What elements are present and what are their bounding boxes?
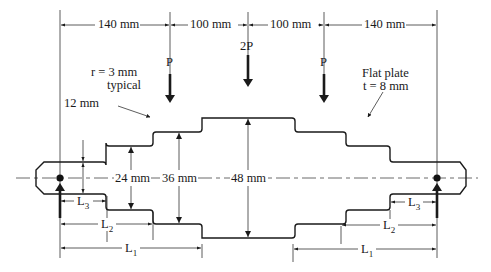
- load-arrows: [165, 55, 329, 103]
- width-48mm-label: 48 mm: [230, 172, 267, 185]
- length-L1-left: L1: [124, 242, 138, 255]
- width-24mm-label: 24 mm: [114, 172, 151, 185]
- length-L2-left: L2: [100, 218, 114, 231]
- width-12mm-label: 12 mm: [63, 97, 100, 110]
- length-dimension-lines: [61, 201, 436, 249]
- length-L1-right: L1: [360, 243, 374, 256]
- load-label-center: 2P: [239, 40, 254, 53]
- dimension-100mm-left: 100 mm: [189, 18, 232, 31]
- reaction-arrows: [55, 183, 442, 218]
- length-L3-right: L3: [407, 196, 421, 209]
- width-36mm-label: 36 mm: [161, 172, 198, 185]
- plate-thickness-label: t = 8 mm: [362, 80, 410, 93]
- dimension-140mm-left: 140 mm: [97, 18, 140, 31]
- fillet-typical-label: typical: [106, 79, 142, 92]
- dimension-140mm-right: 140 mm: [363, 18, 406, 31]
- dimension-100mm-right: 100 mm: [269, 18, 312, 31]
- load-label-right: P: [319, 56, 328, 69]
- load-label-left: P: [165, 56, 174, 69]
- length-L2-right: L2: [382, 219, 396, 232]
- length-L3-left: L3: [76, 195, 90, 208]
- leader-lines: [118, 92, 383, 117]
